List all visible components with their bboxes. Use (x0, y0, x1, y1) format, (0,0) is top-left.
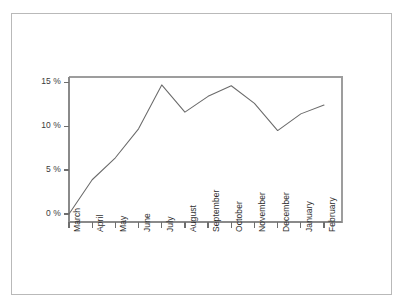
figure-border (11, 13, 392, 295)
x-tick-label: June (143, 213, 152, 232)
x-tick-label: July (166, 216, 175, 232)
y-tick-label: 10 % (41, 121, 61, 130)
x-tick-label: September (212, 190, 221, 232)
x-tick-label: October (235, 201, 244, 232)
x-tick-label: August (189, 205, 198, 232)
x-tick-label: November (258, 192, 267, 232)
y-tick-label: 0 % (46, 209, 61, 218)
x-tick-label: May (119, 216, 128, 232)
x-tick-label: March (73, 208, 82, 232)
y-tick-label: 15 % (41, 77, 61, 86)
x-tick-label: January (305, 201, 314, 232)
y-tick-label: 5 % (46, 165, 61, 174)
x-tick-label: February (328, 197, 337, 232)
chart-figure: 0 %5 %10 %15 % MarchAprilMayJuneJulyAugu… (0, 0, 406, 308)
x-tick-label: April (96, 214, 105, 232)
x-tick-label: December (282, 192, 291, 232)
